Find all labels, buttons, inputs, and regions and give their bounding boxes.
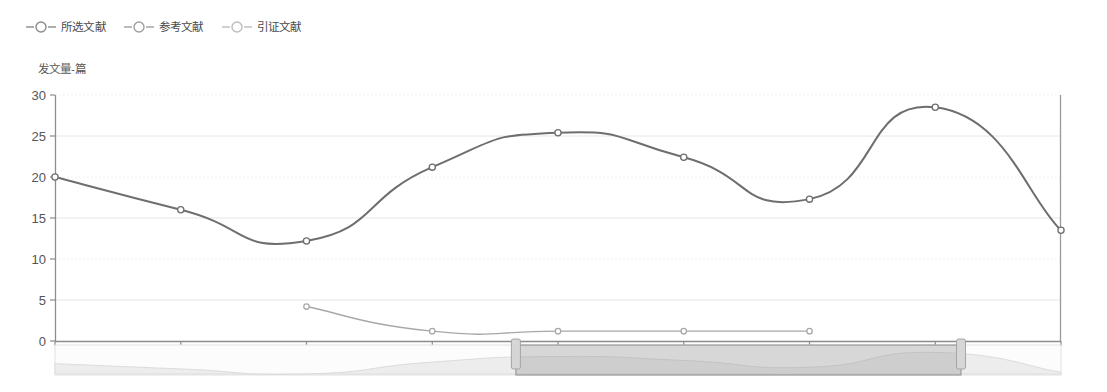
data-point[interactable] xyxy=(178,207,184,213)
y-tick-label: 5 xyxy=(39,293,46,308)
data-point[interactable] xyxy=(52,174,58,180)
chart-widget: 所选文献 参考文献 引证文献 发文量-篇 xyxy=(0,0,1107,392)
data-point[interactable] xyxy=(681,328,686,333)
y-tick-label: 25 xyxy=(32,129,46,144)
data-point[interactable] xyxy=(430,328,435,333)
data-point[interactable] xyxy=(1058,227,1064,233)
data-point[interactable] xyxy=(304,304,309,309)
series-1 xyxy=(52,104,1064,244)
data-point[interactable] xyxy=(807,328,812,333)
series-2 xyxy=(304,304,812,334)
y-tick-label: 10 xyxy=(32,252,46,267)
data-point[interactable] xyxy=(681,154,687,160)
y-tick-label: 30 xyxy=(32,88,46,103)
y-tick-label: 0 xyxy=(39,334,46,349)
y-axis-ticks: 051015202530 xyxy=(32,88,55,349)
datazoom-selected-window[interactable] xyxy=(516,345,961,375)
data-point[interactable] xyxy=(555,130,561,136)
data-point[interactable] xyxy=(932,104,938,110)
datazoom-handle-right[interactable] xyxy=(957,339,966,369)
y-tick-label: 15 xyxy=(32,211,46,226)
y-tick-label: 20 xyxy=(32,170,46,185)
data-point[interactable] xyxy=(806,196,812,202)
chart-canvas: 051015202530 201520162017201820192020202… xyxy=(0,0,1107,392)
data-point[interactable] xyxy=(429,164,435,170)
datazoom-handle-left[interactable] xyxy=(511,339,520,369)
series-line xyxy=(55,107,1061,244)
data-point[interactable] xyxy=(303,238,309,244)
data-point[interactable] xyxy=(555,328,560,333)
